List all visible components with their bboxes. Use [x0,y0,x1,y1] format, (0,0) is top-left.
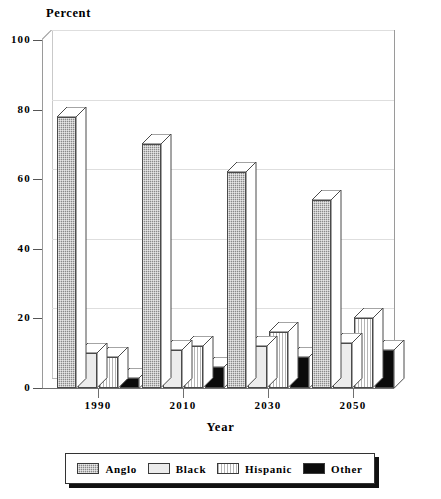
y-axis-tick-label: 40 [1,242,31,254]
bar-anglo-1990 [57,107,87,389]
x-axis-title: Year [0,420,441,435]
plot-inner-axis-edge [52,30,53,378]
y-axis-tick [33,110,42,111]
legend-label: Hispanic [245,463,292,475]
bar-side-face [118,347,129,389]
legend-item-black[interactable]: Black [148,463,206,475]
legend-swatch-anglo-icon [77,463,99,474]
bar-front-face [57,117,76,388]
bar-front-face [227,172,246,388]
bar-side-face [331,190,342,389]
legend-label: Other [331,463,363,475]
legend-item-hispanic[interactable]: Hispanic [217,463,292,475]
y-axis-tick [33,388,42,389]
plot-area: 020406080100 1990201020302050 [0,0,441,440]
bar-side-face [203,336,214,389]
legend-label: Anglo [105,463,137,475]
legend-swatch-other-icon [303,463,325,474]
y-axis-tick [33,179,42,180]
legend-swatch-hispanic-icon [217,463,239,474]
plot-right-wall-edge [394,30,395,378]
y-axis-tick-label: 20 [1,311,31,323]
x-axis-tick [98,388,99,398]
gridline [52,308,394,309]
bar-side-face [161,134,172,389]
x-axis-tick [268,388,269,398]
x-axis-tick [183,388,184,398]
bar-side-face [267,336,278,389]
x-axis-tick-label: 2030 [233,399,303,411]
y-axis-tick-label: 60 [1,172,31,184]
chart-legend: AngloBlackHispanicOther [65,453,375,484]
bar-side-face [76,107,87,389]
gridline [52,30,394,31]
gridline [52,169,394,170]
y-axis-tick [33,40,42,41]
y-axis-tick [33,249,42,250]
bar-front-face [142,144,161,388]
x-axis-tick-label: 2010 [148,399,218,411]
y-axis-tick-label: 80 [1,103,31,115]
bar-anglo-2010 [142,134,172,389]
y-axis-tick-label: 0 [1,381,31,393]
x-axis-tick [353,388,354,398]
bar-front-face [312,200,331,388]
bar-side-face [246,162,257,389]
bar-side-face [352,333,363,389]
bar-side-face [394,340,405,389]
legend-item-other[interactable]: Other [303,463,363,475]
bar-anglo-2050 [312,190,342,389]
bar-side-face [373,308,384,389]
bar-anglo-2030 [227,162,257,389]
legend-label: Black [176,463,206,475]
gridline [52,239,394,240]
gridline [52,100,394,101]
y-axis-tick [33,318,42,319]
legend-item-anglo[interactable]: Anglo [77,463,137,475]
x-axis-tick-label: 2050 [318,399,388,411]
bar-side-face [97,343,108,389]
legend-swatch-black-icon [148,463,170,474]
y-axis-tick-label: 100 [1,33,31,45]
bar-side-face [288,322,299,389]
x-axis-tick-label: 1990 [63,399,133,411]
bar-side-face [182,340,193,389]
